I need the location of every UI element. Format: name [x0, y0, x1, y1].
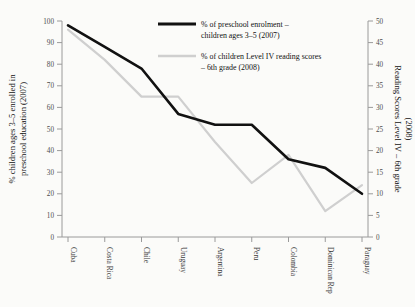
right-tick-label: 35	[376, 82, 384, 90]
legend-entry-2-line1: % of children Level IV reading scores	[201, 52, 321, 61]
right-tick-label: 25	[376, 126, 384, 134]
left-tick-label: 30	[47, 169, 55, 177]
right-tick-label: 5	[376, 212, 380, 220]
right-tick-label: 10	[376, 190, 384, 198]
right-tick-label: 15	[376, 169, 384, 177]
left-tick-label: 40	[47, 147, 55, 155]
category-label: Dominican Rep	[326, 247, 335, 294]
right-tick-label: 50	[376, 18, 384, 26]
legend-entry-2-line2: – 6th grade (2008)	[200, 63, 260, 72]
left-tick-label: 60	[47, 104, 55, 112]
line-chart: 0102030405060708090100 05101520253035404…	[0, 0, 415, 307]
left-axis-title-line1: % children ages 3–5 enrolled in	[7, 74, 17, 184]
legend-entry-1-line2: children ages 3–5 (2007)	[201, 31, 280, 40]
category-label: Peru	[252, 247, 261, 261]
right-axis-title-line1: Reading Scores Level IV – 6th grade	[393, 65, 403, 192]
left-tick-label: 20	[47, 190, 55, 198]
left-tick-label: 70	[47, 82, 55, 90]
right-tick-label: 20	[376, 147, 384, 155]
category-label: Colombia	[289, 247, 298, 277]
category-label: Paraguay	[363, 247, 372, 275]
right-axis-ticks: 05101520253035404550	[368, 18, 384, 242]
right-tick-label: 30	[376, 104, 384, 112]
left-axis-title-line2: preschool education (2007)	[18, 82, 28, 176]
category-label: Chile	[142, 247, 151, 264]
right-axis-title-line2: (2008)	[404, 118, 414, 141]
left-tick-label: 80	[47, 61, 55, 69]
category-label: Uruguay	[179, 247, 188, 273]
left-tick-label: 0	[50, 234, 54, 242]
left-axis-ticks: 0102030405060708090100	[43, 18, 62, 242]
left-tick-label: 100	[43, 18, 54, 26]
chart-container: 0102030405060708090100 05101520253035404…	[0, 0, 415, 307]
category-label: Argentina	[216, 247, 225, 277]
category-label: Costa Rica	[105, 247, 114, 280]
right-tick-label: 0	[376, 234, 380, 242]
category-axis-labels: CubaCosta RicaChileUruguayArgentinaPeruC…	[69, 247, 372, 294]
left-tick-label: 50	[47, 126, 55, 134]
left-tick-label: 90	[47, 39, 55, 47]
right-tick-label: 45	[376, 39, 384, 47]
category-axis-ticks	[68, 237, 362, 242]
legend-entry-1-line1: % of preschool enrolment –	[201, 20, 289, 29]
left-tick-label: 10	[47, 212, 55, 220]
category-label: Cuba	[69, 247, 78, 263]
series-preschool-enrolment-line	[68, 25, 362, 193]
chart-legend: % of preschool enrolment – children ages…	[158, 20, 321, 72]
right-tick-label: 40	[376, 61, 384, 69]
